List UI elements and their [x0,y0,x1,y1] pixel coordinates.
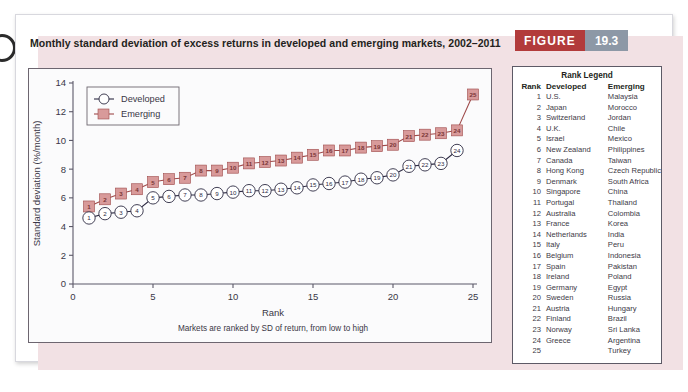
table-cell: Italy [546,240,608,251]
emerging-marker-label: 13 [278,157,285,164]
developed-marker-label: 9 [215,190,219,197]
rank-legend-body: 1U.S.Malaysia2JapanMorocco3SwitzerlandJo… [513,92,661,357]
emerging-marker-label: 1 [87,203,91,210]
emerging-marker-label: 4 [135,186,139,193]
developed-marker-label: 19 [374,174,381,181]
table-row: 12AustraliaColombia [513,209,661,220]
page-title: Monthly standard deviation of excess ret… [30,37,501,49]
table-row: 4U.K.Chile [513,124,661,135]
developed-marker-label: 21 [406,163,413,170]
figure-screenshot: Monthly standard deviation of excess ret… [0,0,688,392]
table-cell: U.K. [546,124,608,135]
developed-marker-label: 14 [294,184,301,191]
chart-legend-box [87,87,179,125]
table-row: 8Hong KongCzech Republic [513,166,661,177]
developed-marker-label: 24 [454,147,461,154]
table-cell: Russia [608,293,661,304]
table-cell: 17 [513,262,546,273]
table-cell: Morocco [608,103,661,114]
emerging-marker-label: 18 [358,144,365,151]
series-line [89,150,457,217]
table-cell: 24 [513,336,546,347]
table-row: 24GreeceArgentina [513,336,661,347]
table-row: 22FinlandBrazil [513,314,661,325]
developed-marker-label: 13 [278,186,285,193]
developed-marker-label: 2 [103,210,107,217]
table-cell: 5 [513,134,546,145]
chart-footnote: Markets are ranked by SD of return, from… [178,324,369,333]
table-row: 19GermanyEgypt [513,283,661,294]
table-row: 18IrelandPoland [513,272,661,283]
table-cell [546,346,608,357]
table-cell: 22 [513,314,546,325]
table-cell: Chile [608,124,661,135]
emerging-marker-label: 17 [342,147,349,154]
table-cell: 4 [513,124,546,135]
table-row: 2JapanMorocco [513,103,661,114]
table-cell: 18 [513,272,546,283]
y-axis-tick-label: 6 [61,192,66,203]
table-cell: Argentina [608,336,661,347]
table-cell: New Zealand [546,145,608,156]
legend-marker-emerging [98,109,109,119]
y-axis-tick-label: 4 [61,221,66,232]
x-axis-tick-label: 15 [308,291,319,302]
x-axis-tick-label: 0 [70,291,75,302]
table-cell: Colombia [608,209,661,220]
table-cell: Taiwan [608,156,661,167]
table-cell: 16 [513,251,546,262]
emerging-marker-label: 23 [438,130,445,137]
table-cell: Turkey [608,346,661,357]
emerging-marker-label: 9 [215,167,219,174]
table-cell: Sri Lanka [608,325,661,336]
table-cell: 6 [513,145,546,156]
rank-legend-header-row: Rank Developed Emerging [513,82,661,92]
table-cell: 14 [513,230,546,241]
table-cell: Japan [546,103,608,114]
table-cell: India [608,230,661,241]
x-axis-tick-label: 20 [388,291,399,302]
x-axis-tick-label: 5 [150,291,155,302]
table-cell: 19 [513,283,546,294]
table-cell: 7 [513,156,546,167]
table-cell: Australia [546,209,608,220]
legend-label-developed: Developed [121,94,165,104]
table-cell: Hong Kong [546,166,608,177]
table-cell: Germany [546,283,608,294]
developed-marker-label: 8 [199,191,203,198]
developed-marker-label: 17 [342,179,349,186]
column-header-emerging: Emerging [608,82,661,92]
page-binding-artifact [0,34,16,62]
table-cell: Greece [546,336,608,347]
table-cell: 8 [513,166,546,177]
table-cell: Korea [608,219,661,230]
rank-legend-box: Rank Legend Rank Developed Emerging 1U.S… [512,66,662,364]
table-cell: Brazil [608,314,661,325]
table-cell: Poland [608,272,661,283]
table-cell: 23 [513,325,546,336]
emerging-marker-label: 2 [103,196,107,203]
x-axis-tick-label: 25 [468,291,479,302]
emerging-marker-label: 5 [151,179,155,186]
table-cell: U.S. [546,92,608,103]
table-row: 23NorwaySri Lanka [513,325,661,336]
table-row: 17SpainPakistan [513,262,661,273]
table-cell: 13 [513,219,546,230]
table-cell: Czech Republic [608,166,661,177]
table-cell: China [608,187,661,198]
emerging-marker-label: 25 [470,91,477,98]
column-header-rank: Rank [513,82,546,92]
emerging-marker-label: 21 [406,133,413,140]
y-axis-title: Standard deviation (%/month) [31,121,42,247]
table-cell: 2 [513,103,546,114]
developed-marker-label: 3 [119,209,123,216]
table-cell: Switzerland [546,113,608,124]
table-cell: Norway [546,325,608,336]
table-cell: Austria [546,304,608,315]
table-cell: Spain [546,262,608,273]
table-cell: Egypt [608,283,661,294]
x-axis-title: Rank [262,307,284,318]
table-row: 14NetherlandsIndia [513,230,661,241]
table-cell: Hungary [608,304,661,315]
developed-marker-label: 20 [390,171,397,178]
